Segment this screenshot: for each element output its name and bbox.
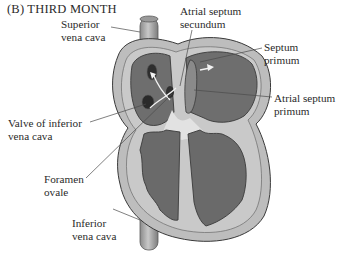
- ivc-opening: [142, 95, 154, 109]
- label-valve-inferior-vena-cava: Valve of inferior vena cava: [8, 117, 82, 142]
- label-superior-vena-cava: Superior vena cava: [61, 18, 105, 43]
- leader-superior-vena-cava: [111, 27, 140, 32]
- label-inferior-vena-cava: Inferior vena cava: [72, 217, 116, 242]
- label-foramen-ovale: Foramen ovale: [44, 173, 84, 198]
- label-atrial-septum-primum: Atrial septum primum: [274, 92, 335, 117]
- label-septum-primum: Septum primum: [264, 41, 299, 66]
- label-atrial-septum-secundum: Atrial septum secundum: [180, 5, 241, 30]
